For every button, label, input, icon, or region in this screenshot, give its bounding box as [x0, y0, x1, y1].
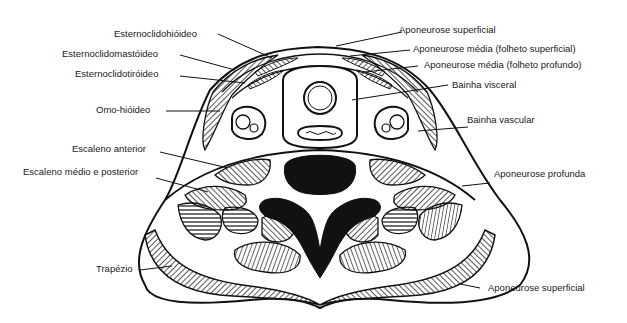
- label-aponeurose-media-superficial: Aponeurose média (folheto superficial): [413, 43, 576, 54]
- leader-esternoclidohioideo: [218, 34, 272, 58]
- label-trapezio: Trapézio: [96, 263, 133, 274]
- label-aponeurose-media-profundo: Aponeurose média (folheto profundo): [424, 59, 581, 70]
- label-esternoclidomastoideo: Esternoclidomastóideo: [62, 48, 158, 59]
- carotid-right: [390, 115, 404, 129]
- label-escaleno-medio-posterior: Escaleno médio e posterior: [23, 166, 138, 177]
- label-esternoclidotiroideo: Esternoclidotiróideo: [75, 68, 158, 79]
- label-aponeurose-profunda: Aponeurose profunda: [494, 168, 585, 179]
- label-esternoclidohioideo: Esternoclidohióideo: [114, 28, 197, 39]
- trachea-lumen: [308, 86, 332, 110]
- leader-aponeurose-superficial-top: [336, 32, 402, 46]
- label-aponeurose-superficial-bottom: Aponeurose superficial: [488, 282, 585, 293]
- label-bainha-visceral: Bainha visceral: [452, 79, 516, 90]
- jugular-right: [382, 124, 390, 132]
- label-escaleno-anterior: Escaleno anterior: [72, 143, 146, 154]
- carotid-left: [236, 115, 250, 129]
- jugular-left: [250, 124, 258, 132]
- label-aponeurose-superficial-top: Aponeurose superficial: [399, 24, 496, 35]
- leader-esternoclidomastoideo: [180, 55, 235, 70]
- label-omo-hioideo: Omo-hióideo: [96, 104, 150, 115]
- label-bainha-vascular: Bainha vascular: [467, 114, 535, 125]
